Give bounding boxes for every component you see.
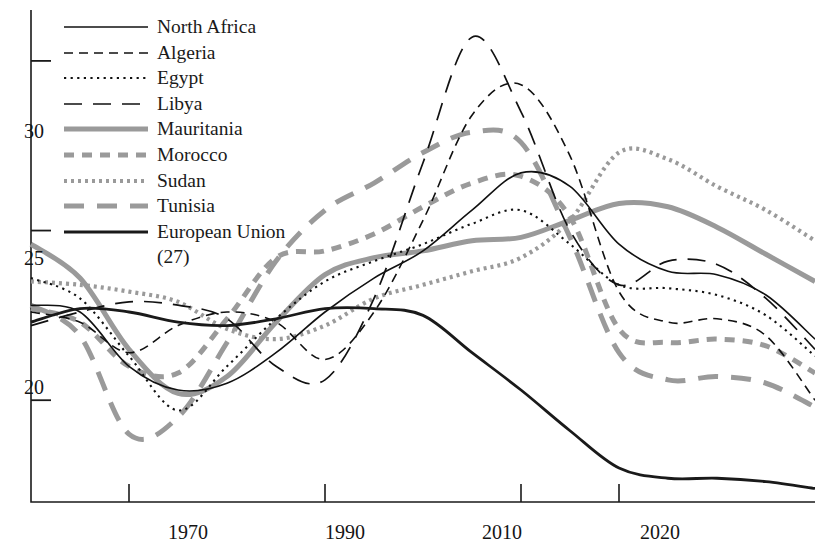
legend-item: Sudan [62, 168, 327, 194]
chart-legend: North Africa Algeria Egypt Libya Maurita… [62, 14, 327, 270]
legend-key-egypt [62, 65, 157, 91]
y-tick-label-25: 25 [0, 247, 44, 270]
legend-label-tunisia: Tunisia [157, 193, 215, 219]
legend-label-mauritania: Mauritania [157, 116, 243, 142]
legend-label-european-union: European Union [157, 219, 285, 245]
y-tick-label-20: 20 [0, 376, 44, 399]
legend-key-tunisia [62, 193, 157, 219]
legend-label-european-union-continuation: (27) [157, 244, 327, 270]
y-tick-label-30: 30 [0, 120, 44, 143]
legend-item: Morocco [62, 142, 327, 168]
legend-label-sudan: Sudan [157, 168, 206, 194]
legend-key-sudan [62, 168, 157, 194]
series-line-european-union-27 [31, 308, 815, 489]
x-tick-label-2020: 2020 [620, 521, 700, 544]
legend-item: North Africa [62, 14, 327, 40]
legend-key-north-africa [62, 14, 157, 40]
x-tick-label-1970: 1970 [148, 521, 228, 544]
legend-key-morocco [62, 142, 157, 168]
x-tick-label-2010: 2010 [462, 521, 542, 544]
legend-key-european-union [62, 219, 157, 245]
legend-label-morocco: Morocco [157, 142, 227, 168]
legend-key-algeria [62, 40, 157, 66]
legend-label-libya: Libya [157, 91, 202, 117]
x-tick-label-1990: 1990 [305, 521, 385, 544]
legend-label-egypt: Egypt [157, 65, 204, 91]
legend-item: Egypt [62, 65, 327, 91]
legend-item: Tunisia [62, 193, 327, 219]
legend-key-mauritania [62, 116, 157, 142]
legend-item: Algeria [62, 40, 327, 66]
legend-item: Libya [62, 91, 327, 117]
legend-item: Mauritania [62, 116, 327, 142]
legend-label-north-africa: North Africa [157, 14, 256, 40]
legend-key-libya [62, 91, 157, 117]
chart-figure: 30 25 20 1970 1990 2010 2020 North Afric… [0, 0, 815, 555]
legend-item: European Union [62, 219, 327, 245]
legend-label-algeria: Algeria [157, 40, 215, 66]
